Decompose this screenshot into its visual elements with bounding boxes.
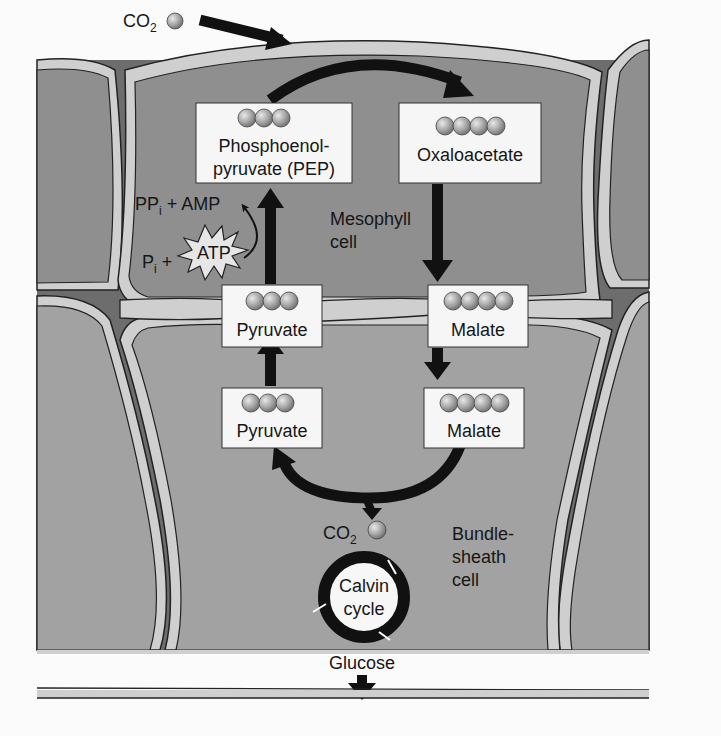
co2-molecule-icon: [167, 13, 183, 29]
box-malate-mesophyll: Malate: [428, 285, 528, 347]
svg-text:Malate: Malate: [451, 320, 505, 340]
box-oxaloacetate: Oxaloacetate: [399, 103, 541, 183]
pyruvate-to-pep-arrow-icon: [265, 204, 276, 284]
carbon-chain-3-icon: [246, 292, 298, 310]
carbon-chain-3-icon: [242, 394, 294, 412]
svg-text:Oxaloacetate: Oxaloacetate: [417, 145, 523, 165]
oxaloacetate-to-malate-arrow-icon: [432, 184, 443, 266]
box-pep: Phosphoenol- pyruvate (PEP): [196, 103, 352, 183]
svg-text:Calvin: Calvin: [339, 576, 389, 596]
co2-molecule-icon: [368, 521, 386, 539]
pyruvate-transport-arrow-icon: [265, 350, 276, 386]
c4-pathway-diagram: CO2 PPi + AMP Pi + ATP Mesophyll cell: [0, 0, 721, 736]
glucose-label: Glucose: [329, 653, 395, 673]
mesophyll-label-2: cell: [330, 232, 357, 252]
bundle-sheath-label-2: sheath: [452, 547, 506, 567]
carbon-chain-3-icon: [238, 109, 290, 127]
mesophyll-label: Mesophyll: [330, 209, 411, 229]
svg-text:Phosphoenol-: Phosphoenol-: [218, 136, 329, 156]
box-pyruvate-mesophyll: Pyruvate: [222, 285, 322, 347]
svg-text:ATP: ATP: [197, 243, 231, 263]
svg-text:Malate: Malate: [447, 421, 501, 441]
svg-text:pyruvate (PEP): pyruvate (PEP): [213, 159, 335, 179]
bundle-sheath-label: Bundle-: [452, 524, 514, 544]
bundle-sheath-label-3: cell: [452, 570, 479, 590]
svg-text:Pyruvate: Pyruvate: [236, 421, 307, 441]
box-pyruvate-bundle-sheath: Pyruvate: [222, 388, 322, 448]
svg-text:cycle: cycle: [343, 599, 384, 619]
box-malate-bundle-sheath: Malate: [424, 388, 524, 448]
svg-text:Pyruvate: Pyruvate: [236, 320, 307, 340]
